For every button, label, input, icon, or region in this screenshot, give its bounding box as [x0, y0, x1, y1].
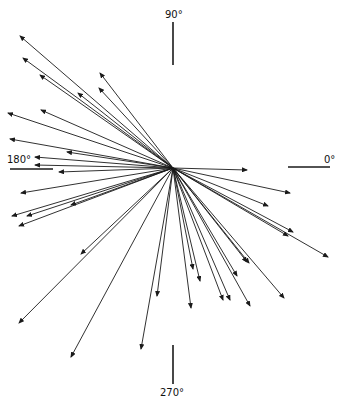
vector-arrow [20, 36, 173, 168]
vector-arrow [173, 168, 223, 300]
vector-arrow [10, 139, 173, 168]
compass-axes [10, 22, 330, 384]
vector-rose-diagram [0, 0, 339, 403]
vector-arrow [173, 168, 237, 276]
vector-arrow [40, 75, 173, 168]
vector-arrow [173, 168, 328, 257]
vector-arrow [8, 113, 173, 168]
direction-vectors [8, 36, 328, 357]
axis-label-0: 0° [324, 155, 335, 165]
vector-arrow [23, 58, 173, 168]
vector-arrow [173, 168, 284, 298]
vector-arrow [19, 168, 173, 226]
vector-arrow [78, 93, 173, 168]
vector-arrow [157, 168, 173, 296]
axis-label-90: 90° [165, 10, 183, 20]
axis-label-270: 270° [160, 388, 184, 398]
vector-arrow [173, 168, 247, 170]
vector-arrow [100, 73, 173, 168]
vector-arrow [173, 168, 193, 269]
axis-label-180: 180° [7, 155, 31, 165]
vector-arrow [59, 168, 173, 172]
